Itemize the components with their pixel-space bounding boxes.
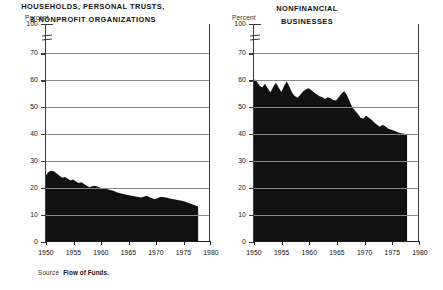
- y-axis-tick: [249, 188, 254, 189]
- y-axis-tick: [41, 188, 46, 189]
- gridline: [46, 188, 209, 189]
- gridline: [46, 107, 209, 108]
- y-axis-tick-label: 20: [224, 184, 246, 191]
- x-axis-tick-label: 1975: [385, 249, 401, 256]
- chart-title-line-1: NONFINANCIAL: [276, 4, 338, 13]
- y-axis-tick-label: 50: [224, 103, 246, 110]
- y-axis-tick-label: 60: [224, 76, 246, 83]
- y-axis-tick: [249, 24, 254, 25]
- x-axis-tick-label: 1970: [357, 249, 373, 256]
- gridline: [254, 134, 418, 135]
- area-series-nonfinancial: [254, 24, 418, 241]
- y-axis-top-tick: [254, 24, 261, 25]
- x-axis-tick-label: 1950: [246, 249, 262, 256]
- y-axis-tick-label: 0: [224, 238, 246, 245]
- x-axis-tick-label: 1980: [203, 249, 219, 256]
- y-axis-tick: [41, 161, 46, 162]
- y-axis-break-icon: [42, 35, 52, 40]
- x-axis-tick: [210, 241, 211, 245]
- gridline: [254, 188, 418, 189]
- gridline: [254, 53, 418, 54]
- source-value: Flow of Funds.: [63, 269, 109, 276]
- x-axis-tick: [184, 241, 185, 245]
- plot-area-households: 0102030405060701001950195519601965197019…: [45, 24, 210, 242]
- gridline: [254, 107, 418, 108]
- y-axis-tick: [249, 107, 254, 108]
- x-axis-tick: [156, 241, 157, 245]
- x-axis-tick-label: 1975: [176, 249, 192, 256]
- y-axis-tick-label: 100: [224, 20, 246, 27]
- x-axis-tick-label: 1955: [66, 249, 82, 256]
- y-axis-tick: [249, 134, 254, 135]
- gridline: [46, 80, 209, 81]
- x-axis-tick: [337, 241, 338, 245]
- gridline: [254, 80, 418, 81]
- y-axis-tick: [41, 134, 46, 135]
- y-axis-tick: [249, 80, 254, 81]
- chart-panel-households: Percent HOUSEHOLDS, PERSONAL TRUSTS, & N…: [0, 0, 221, 290]
- y-axis-tick-label: 30: [16, 157, 38, 164]
- x-axis-tick: [74, 241, 75, 245]
- figure-root: Percent HOUSEHOLDS, PERSONAL TRUSTS, & N…: [0, 0, 443, 290]
- x-axis-tick: [129, 241, 130, 245]
- y-axis-break-icon: [250, 35, 260, 40]
- y-axis-tick-label: 10: [224, 211, 246, 218]
- x-axis-tick-label: 1950: [38, 249, 54, 256]
- source-note: SourceFlow of Funds.: [38, 269, 109, 276]
- x-axis-tick-label: 1965: [121, 249, 137, 256]
- x-axis-tick: [419, 241, 420, 245]
- y-axis-tick: [41, 107, 46, 108]
- y-axis-tick-label: 20: [16, 184, 38, 191]
- chart-panel-nonfinancial: Percent NONFINANCIAL BUSINESSES 01020304…: [221, 0, 443, 290]
- x-axis-tick: [254, 241, 255, 245]
- x-axis-tick-label: 1960: [302, 249, 318, 256]
- y-axis-tick-label: 70: [224, 49, 246, 56]
- y-axis-top-tick: [46, 24, 53, 25]
- x-axis-tick: [101, 241, 102, 245]
- plot-area-nonfinancial: 0102030405060701001950195519601965197019…: [253, 24, 419, 242]
- y-axis-tick-label: 100: [16, 20, 38, 27]
- y-axis-tick-label: 70: [16, 49, 38, 56]
- y-axis-tick-label: 30: [224, 157, 246, 164]
- y-axis-tick-label: 60: [16, 76, 38, 83]
- x-axis-tick: [46, 241, 47, 245]
- x-axis-tick-label: 1980: [412, 249, 428, 256]
- y-axis-tick: [41, 24, 46, 25]
- x-axis-tick: [365, 241, 366, 245]
- x-axis-tick: [392, 241, 393, 245]
- y-axis-tick-label: 40: [224, 130, 246, 137]
- x-axis-tick-label: 1970: [148, 249, 164, 256]
- gridline: [254, 215, 418, 216]
- chart-title-line-2: & NONPROFIT ORGANIZATIONS: [18, 15, 168, 24]
- gridline: [46, 215, 209, 216]
- chart-title-line-1: HOUSEHOLDS, PERSONAL TRUSTS,: [21, 2, 164, 11]
- y-axis-tick: [249, 53, 254, 54]
- x-axis-tick: [309, 241, 310, 245]
- y-axis-tick-label: 40: [16, 130, 38, 137]
- area-series-households: [46, 24, 209, 241]
- gridline: [46, 161, 209, 162]
- y-axis-tick: [41, 53, 46, 54]
- y-axis-tick: [249, 215, 254, 216]
- chart-title-households: HOUSEHOLDS, PERSONAL TRUSTS, & NONPROFIT…: [18, 2, 168, 24]
- gridline: [46, 53, 209, 54]
- y-axis-tick-label: 50: [16, 103, 38, 110]
- y-axis-tick-label: 10: [16, 211, 38, 218]
- x-axis-tick: [282, 241, 283, 245]
- source-label: Source: [38, 269, 59, 276]
- x-axis-tick-label: 1960: [93, 249, 109, 256]
- y-axis-tick: [41, 80, 46, 81]
- x-axis-tick-label: 1955: [274, 249, 290, 256]
- y-axis-tick: [249, 161, 254, 162]
- y-axis-tick: [41, 215, 46, 216]
- chart-title-nonfinancial: NONFINANCIAL BUSINESSES: [241, 4, 373, 26]
- y-axis-tick-label: 0: [16, 238, 38, 245]
- gridline: [46, 134, 209, 135]
- x-axis-tick-label: 1965: [329, 249, 345, 256]
- gridline: [254, 161, 418, 162]
